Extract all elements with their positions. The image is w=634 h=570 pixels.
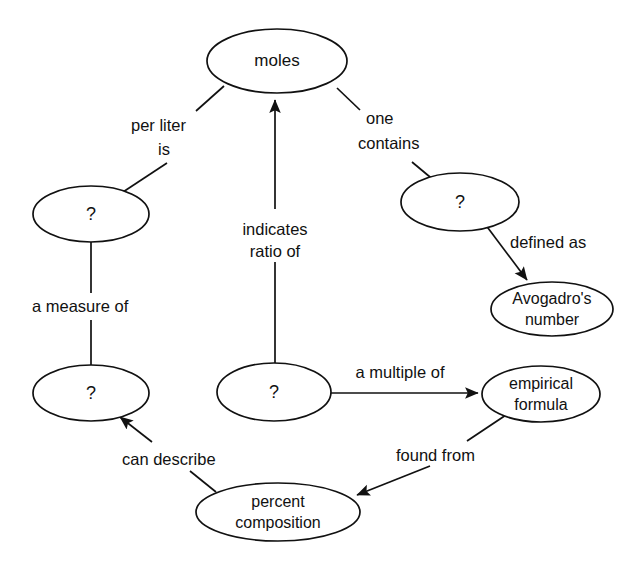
node-label-percent-line1: percent (251, 493, 305, 510)
edge-left-q-to-lower-left-q: a measure of (32, 242, 129, 365)
edge-line-segment-arrow (357, 466, 430, 495)
node-empirical-formula[interactable]: empirical formula (482, 366, 600, 422)
edge-line-segment (123, 163, 167, 192)
node-label-question-right: ? (455, 192, 465, 212)
edge-center-q-to-moles: indicates ratio of (242, 100, 307, 363)
node-avogadro-number[interactable]: Avogadro's number (491, 282, 613, 336)
edge-line-segment (467, 415, 506, 441)
edge-label-ratio-of: ratio of (250, 242, 301, 260)
concept-map-canvas: per liter is indicates ratio of one cont… (0, 0, 634, 570)
node-question-left[interactable]: ? (33, 186, 149, 242)
edge-moles-to-left-q: per liter is (123, 86, 224, 192)
node-label-moles: moles (254, 51, 299, 70)
edge-label-a-multiple-of: a multiple of (356, 363, 445, 381)
edge-label-can-describe: can describe (122, 450, 216, 468)
edge-line-segment-arrow (120, 417, 152, 442)
node-label-avogadro-line1: Avogadro's (512, 290, 591, 307)
edge-line-segment (190, 471, 216, 492)
edge-label-a-measure-of: a measure of (32, 297, 129, 315)
node-percent-composition[interactable]: percent composition (196, 483, 360, 541)
edge-label-per-liter: per liter (131, 116, 187, 134)
node-moles[interactable]: moles (207, 29, 347, 93)
node-label-empirical-line2: formula (514, 396, 567, 413)
edge-label-one: one (366, 109, 394, 127)
node-label-avogadro-line2: number (525, 311, 580, 328)
edge-label-found-from: found from (396, 446, 475, 464)
edge-moles-to-right-q: one contains (337, 88, 436, 182)
edge-right-q-to-avogadro: defined as (485, 224, 586, 280)
node-question-right[interactable]: ? (401, 173, 519, 231)
edge-line-segment (196, 86, 224, 111)
node-label-question-center: ? (269, 382, 279, 402)
edge-line-segment (337, 88, 360, 110)
concept-map: per liter is indicates ratio of one cont… (0, 0, 634, 570)
node-label-percent-line2: composition (235, 514, 320, 531)
node-label-question-left: ? (86, 204, 96, 224)
edge-empirical-to-percent: found from (357, 415, 506, 495)
edge-label-contains: contains (358, 134, 419, 152)
edge-label-is: is (158, 140, 170, 158)
node-question-lower-left[interactable]: ? (33, 365, 149, 421)
node-label-question-lower-left: ? (86, 383, 96, 403)
node-question-center[interactable]: ? (217, 363, 331, 421)
edge-label-indicates: indicates (242, 220, 307, 238)
node-label-empirical-line1: empirical (509, 375, 573, 392)
edge-percent-to-lower-left-q: can describe (120, 417, 216, 492)
edge-label-defined-as: defined as (510, 233, 586, 251)
node-shape-percent-composition[interactable] (196, 483, 360, 541)
edge-center-q-to-empirical: a multiple of (331, 363, 478, 393)
